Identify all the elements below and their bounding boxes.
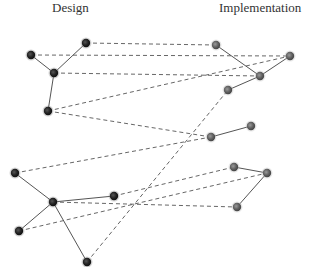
- solid-edge: [48, 73, 54, 111]
- dashed-edge: [15, 137, 211, 173]
- solid-edge: [15, 173, 53, 202]
- dashed-edge: [31, 55, 290, 56]
- design-node: [50, 69, 58, 77]
- design-node: [82, 39, 90, 47]
- dashed-edge: [48, 111, 211, 137]
- nodes: [10, 38, 296, 267]
- solid-edge: [54, 43, 86, 73]
- design-node: [83, 258, 91, 266]
- implementation-node: [256, 72, 264, 80]
- dashed-edge: [54, 73, 260, 76]
- solid-edge: [216, 45, 260, 76]
- dashed-edge: [86, 43, 216, 45]
- dashed-edge: [48, 56, 290, 111]
- dashed-edge: [53, 202, 237, 207]
- design-node: [15, 227, 23, 235]
- solid-edge: [237, 173, 267, 207]
- dashed-edge: [114, 167, 234, 196]
- implementation-node: [247, 122, 255, 130]
- design-node: [110, 192, 118, 200]
- implementation-node: [207, 133, 215, 141]
- design-node: [44, 107, 52, 115]
- implementation-node: [224, 86, 232, 94]
- design-node: [11, 169, 19, 177]
- implementation-node: [212, 41, 220, 49]
- implementation-node: [263, 169, 271, 177]
- design-node: [27, 51, 35, 59]
- implementation-node: [230, 163, 238, 171]
- solid-edge: [53, 196, 114, 202]
- implementation-node: [286, 52, 294, 60]
- design-node: [49, 198, 57, 206]
- solid-edge: [53, 202, 87, 262]
- dashed-edge: [87, 90, 228, 262]
- mapping-diagram: [0, 0, 310, 267]
- implementation-node: [233, 203, 241, 211]
- solid-edge: [211, 126, 251, 137]
